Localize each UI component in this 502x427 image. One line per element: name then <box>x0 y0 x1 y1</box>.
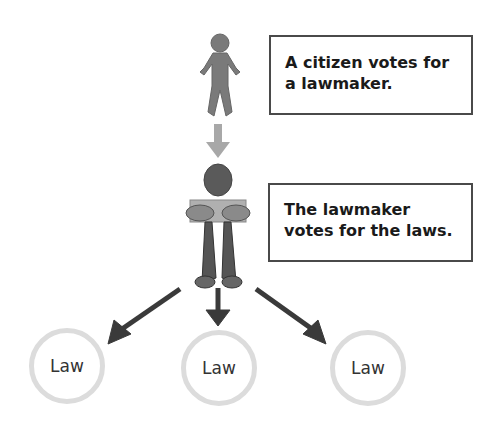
citizen-to-lawmaker-arrow <box>206 124 230 158</box>
lawmaker-figure-icon <box>186 164 250 288</box>
lawmaker-text-line-1: The lawmaker <box>284 199 457 220</box>
lawmaker-description-box: The lawmaker votes for the laws. <box>268 183 473 262</box>
lawmaker-text-line-2: votes for the laws. <box>284 220 457 241</box>
citizen-text-line-2: a lawmaker. <box>285 73 457 94</box>
law-node-2: Law <box>181 330 257 406</box>
citizen-description-box: A citizen votes for a lawmaker. <box>269 35 473 115</box>
lawmaker-to-law-1-arrow <box>108 289 180 344</box>
lawmaker-to-law-3-arrow <box>256 289 326 344</box>
citizen-figure-icon <box>200 34 240 116</box>
law-label: Law <box>202 358 236 378</box>
law-label: Law <box>50 356 84 376</box>
law-node-3: Law <box>330 330 406 406</box>
law-label: Law <box>351 358 385 378</box>
lawmaker-to-law-2-arrow <box>206 288 230 326</box>
law-node-1: Law <box>29 328 105 404</box>
citizen-text-line-1: A citizen votes for <box>285 52 457 73</box>
